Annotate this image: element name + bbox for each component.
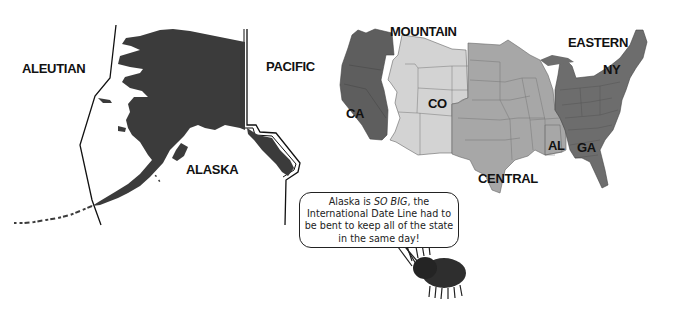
bug-head	[413, 257, 437, 279]
bubble-emphasis: SO BIG	[374, 196, 408, 207]
label-aleutian: ALEUTIAN	[22, 62, 85, 75]
label-ca: CA	[346, 107, 364, 120]
label-mountain: MOUNTAIN	[390, 25, 457, 38]
bubble-line-1-start: Alaska is	[329, 196, 374, 207]
label-al: AL	[548, 139, 565, 152]
bubble-line-4: in the same day!	[304, 233, 454, 245]
alaska-shape	[92, 29, 245, 206]
alaska-panhandle	[247, 128, 294, 176]
speech-bubble: Alaska is SO BIG, the International Date…	[299, 192, 459, 248]
bubble-line-1-end: , the	[407, 196, 429, 207]
label-alaska: ALASKA	[186, 163, 238, 176]
bubble-line-1: Alaska is SO BIG, the	[304, 196, 454, 208]
alaska-island	[118, 126, 126, 132]
bubble-line-3: be bent to keep all of the state	[304, 220, 454, 232]
bubble-line-2: International Date Line had to	[304, 208, 454, 220]
label-ny: NY	[603, 63, 620, 76]
label-ga: GA	[577, 141, 596, 154]
zone-pacific	[340, 29, 394, 140]
label-pacific-alaska: PACIFIC	[266, 60, 315, 73]
aleutian-islands	[14, 206, 92, 223]
label-eastern: EASTERN	[568, 36, 628, 49]
label-central: CENTRAL	[478, 172, 538, 185]
label-co: CO	[428, 97, 447, 110]
alaska-island	[98, 98, 112, 103]
alaska-island	[172, 143, 188, 161]
zone-eastern	[555, 30, 647, 188]
